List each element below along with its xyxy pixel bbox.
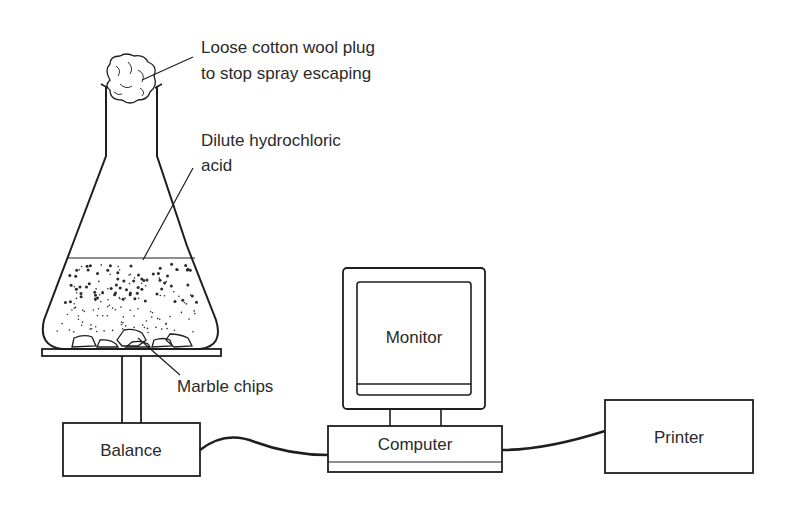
bubble (160, 295, 162, 297)
marble-chips (72, 329, 192, 347)
bubble (128, 274, 130, 276)
leader-acid (143, 168, 193, 260)
bubble (73, 331, 75, 333)
bubble (125, 325, 127, 327)
cable-computer-printer (502, 431, 605, 450)
bubble (193, 310, 195, 312)
bubble (107, 288, 109, 290)
bubble (146, 279, 149, 282)
bubble (119, 298, 121, 300)
bubble (109, 305, 111, 307)
bubble (195, 301, 198, 304)
bubble (115, 284, 118, 287)
bubble (124, 297, 126, 299)
bubble (95, 326, 97, 328)
bubble (89, 264, 92, 267)
label-cotton-plug-line1: Loose cotton wool plug (201, 38, 375, 57)
bubble (140, 288, 143, 291)
bubble (102, 291, 104, 293)
bubble (186, 283, 189, 286)
bubble (166, 328, 168, 330)
bubble (142, 324, 144, 326)
bubble (103, 330, 105, 332)
bubble (121, 324, 123, 326)
bubble (96, 331, 98, 333)
bubble (184, 302, 186, 304)
bubble (144, 299, 147, 302)
bubble (69, 300, 72, 303)
bubble (107, 315, 109, 317)
leader-cotton (142, 57, 193, 80)
marble-chip (72, 336, 96, 347)
bubble (141, 283, 143, 285)
bubble (159, 277, 161, 279)
conical-flask (43, 84, 218, 349)
bubble (90, 324, 92, 326)
bubble (121, 321, 123, 323)
bubble (174, 329, 176, 331)
bubble (80, 295, 83, 298)
monitor-stand (390, 409, 441, 426)
bubble (81, 266, 83, 268)
label-marble-chips: Marble chips (177, 377, 273, 396)
gas-bubbles (56, 263, 198, 334)
bubble (150, 311, 152, 313)
bubble (130, 265, 133, 268)
bubble (110, 287, 113, 290)
bubble (120, 306, 122, 308)
bubble (165, 323, 167, 325)
bubble (67, 314, 69, 316)
bubble (80, 292, 83, 295)
bubble (147, 328, 149, 330)
bubble (106, 269, 109, 272)
bubble (144, 327, 146, 329)
bubble (114, 292, 117, 295)
bubble (102, 315, 104, 317)
bubble (119, 269, 121, 271)
bubble (107, 306, 109, 308)
bubble (161, 328, 163, 330)
bubble (188, 318, 190, 320)
bubble (93, 309, 95, 311)
bubble (68, 274, 71, 277)
bubble (173, 291, 175, 293)
bubble (99, 294, 101, 296)
bubble (152, 273, 155, 276)
bubble (129, 283, 131, 285)
bubble (79, 269, 81, 271)
bubble (130, 273, 132, 275)
cable-balance-computer (200, 438, 328, 456)
bubble (114, 295, 116, 297)
monitor (343, 268, 485, 426)
bubble (88, 282, 91, 285)
bubble (70, 284, 73, 287)
bubble (85, 286, 88, 289)
marble-chip (117, 329, 146, 346)
bubble (155, 327, 157, 329)
bubble (112, 330, 114, 332)
bubble (157, 318, 159, 320)
label-cotton-plug-line2: to stop spray escaping (201, 64, 371, 83)
bubble (129, 292, 132, 295)
bubble (186, 303, 188, 305)
bubble (76, 298, 78, 300)
bubble (91, 328, 93, 330)
bubble (78, 315, 80, 317)
bubble (178, 295, 180, 297)
bubble (181, 312, 183, 314)
bubble (159, 319, 161, 321)
bubble (140, 278, 143, 281)
bubble (117, 266, 119, 268)
bubble (100, 301, 102, 303)
bubble (159, 267, 162, 270)
bubble (109, 264, 112, 267)
bubble (164, 295, 166, 297)
label-monitor: Monitor (386, 328, 443, 347)
bubble (74, 303, 76, 305)
bubble (137, 286, 140, 289)
label-printer: Printer (654, 428, 704, 447)
label-balance: Balance (100, 441, 161, 460)
bubble (76, 288, 78, 290)
bubble (159, 279, 162, 282)
bubble (147, 332, 149, 334)
